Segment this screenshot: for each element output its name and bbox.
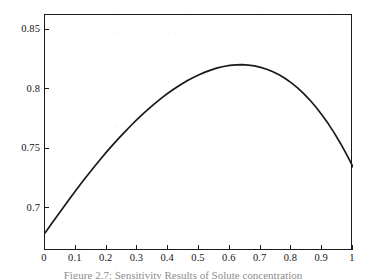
y-tick-mark	[44, 207, 49, 208]
x-tick-label-01: 0.1	[68, 252, 81, 263]
figure-panel: 0.85 0.8 0.75 0.7 0 0.1 0.2 0.3 0.4 0.5 …	[0, 0, 366, 279]
x-tick-mark	[167, 245, 168, 250]
x-tick-label-07: 0.7	[253, 252, 266, 263]
y-tick-mark	[44, 29, 49, 30]
x-tick-mark	[44, 245, 45, 250]
y-tick-label-075: 0.75	[21, 142, 40, 153]
data-series-line	[45, 65, 353, 233]
x-tick-label-04: 0.4	[160, 252, 173, 263]
x-tick-label-06: 0.6	[222, 252, 235, 263]
figure-caption: Figure 2.7: Sensitivity Results of Solut…	[0, 269, 366, 279]
x-tick-label-1: 1	[349, 252, 354, 263]
x-tick-mark	[75, 245, 76, 250]
x-tick-mark	[229, 245, 230, 250]
y-tick-label-07: 0.7	[27, 202, 40, 213]
y-tick-mark	[44, 88, 49, 89]
plot-axes-box	[44, 14, 352, 250]
y-tick-label-085: 0.85	[21, 23, 40, 34]
x-tick-mark	[106, 245, 107, 250]
x-tick-label-05: 0.5	[191, 252, 204, 263]
x-tick-label-02: 0.2	[99, 252, 112, 263]
x-tick-label-08: 0.8	[284, 252, 297, 263]
x-tick-label-09: 0.9	[314, 252, 327, 263]
x-tick-mark	[290, 245, 291, 250]
plot-canvas	[45, 15, 353, 251]
x-tick-label-03: 0.3	[130, 252, 143, 263]
x-tick-mark	[136, 245, 137, 250]
x-tick-mark	[352, 245, 353, 250]
y-tick-label-08: 0.8	[27, 83, 40, 94]
x-tick-mark	[198, 245, 199, 250]
x-tick-mark	[260, 245, 261, 250]
y-tick-mark	[44, 148, 49, 149]
x-tick-mark	[321, 245, 322, 250]
x-tick-label-0: 0	[41, 252, 46, 263]
